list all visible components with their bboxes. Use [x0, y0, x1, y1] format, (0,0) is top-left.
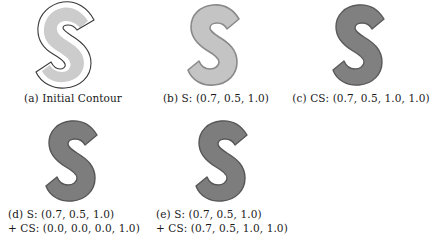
s-shape-e	[191, 116, 257, 204]
panel-b-caption: (b) S: (0.7, 0.5, 1.0)	[163, 92, 269, 106]
panel-a-initial-contour: (a) Initial Contour	[0, 0, 146, 116]
shape-container-c	[286, 0, 436, 92]
panel-c-cs-result: (c) CS: (0.7, 0.5, 1.0, 1.0)	[286, 0, 436, 116]
s-shape-b	[183, 0, 249, 88]
figure-row-top: (a) Initial Contour (b) S: (0.7, 0.5, 1.…	[0, 0, 436, 116]
caption-line: (c) CS: (0.7, 0.5, 1.0, 1.0)	[292, 92, 429, 106]
figure-row-bottom: (d) S: (0.7, 0.5, 1.0) + CS: (0.0, 0.0, …	[0, 116, 436, 242]
caption-line: (b) S: (0.7, 0.5, 1.0)	[163, 92, 269, 106]
caption-line: (d) S: (0.7, 0.5, 1.0)	[8, 208, 148, 222]
caption-line: (a) Initial Contour	[24, 92, 122, 106]
s-shape-initial-contour	[32, 0, 114, 88]
panel-b-s-result: (b) S: (0.7, 0.5, 1.0)	[146, 0, 286, 116]
caption-line: (e) S: (0.7, 0.5, 1.0)	[156, 208, 300, 222]
caption-line: + CS: (0.0, 0.0, 0.0, 1.0)	[8, 222, 148, 236]
panel-d-s-plus-cs-result: (d) S: (0.7, 0.5, 1.0) + CS: (0.0, 0.0, …	[0, 116, 148, 242]
shape-container-d	[0, 116, 148, 208]
panel-e-caption: (e) S: (0.7, 0.5, 1.0) + CS: (0.7, 0.5, …	[148, 208, 300, 235]
segmentation-results-figure: (a) Initial Contour (b) S: (0.7, 0.5, 1.…	[0, 0, 436, 242]
shape-container-b	[146, 0, 286, 92]
panel-a-caption: (a) Initial Contour	[24, 92, 122, 106]
s-shape-d	[41, 116, 107, 204]
caption-line: + CS: (0.7, 0.5, 1.0, 1.0)	[156, 222, 300, 236]
panel-c-caption: (c) CS: (0.7, 0.5, 1.0, 1.0)	[292, 92, 429, 106]
shape-container-a	[0, 0, 146, 92]
s-shape-c	[328, 0, 394, 88]
panel-d-caption: (d) S: (0.7, 0.5, 1.0) + CS: (0.0, 0.0, …	[0, 208, 148, 235]
shape-container-e	[148, 116, 300, 208]
panel-e-s-plus-cs-result: (e) S: (0.7, 0.5, 1.0) + CS: (0.7, 0.5, …	[148, 116, 300, 242]
